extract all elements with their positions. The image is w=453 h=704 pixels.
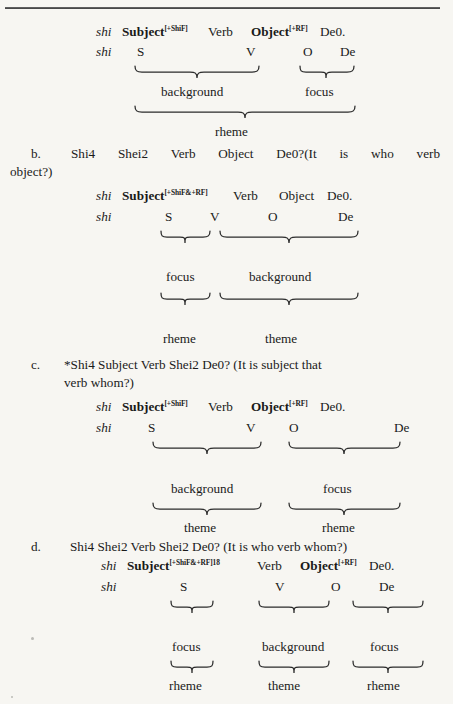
footnote-marker: 18 <box>213 558 220 567</box>
gloss-d-verb: Verb <box>257 559 282 572</box>
brace-b-background <box>219 230 359 245</box>
abbrev-d-shi: shi <box>101 580 116 593</box>
label-c-rheme: rheme <box>322 521 355 534</box>
label-c-background: background <box>171 482 233 495</box>
example-letter-b: b. <box>31 147 41 160</box>
gloss-b-shi: shi <box>96 189 111 202</box>
gloss-d-shi: shi <box>101 559 116 572</box>
gloss-c-verb: Verb <box>208 400 233 413</box>
abbrev-d-o: O <box>331 580 341 593</box>
example-letter-c: c. <box>31 358 40 371</box>
feature-shif-superscript: [+ShiF] <box>165 24 188 33</box>
label-a-focus: focus <box>305 85 334 98</box>
label-d-rheme-2: rheme <box>367 679 400 692</box>
label-d-theme: theme <box>268 679 300 692</box>
label-c-theme: theme <box>184 521 216 534</box>
brace-a-rheme <box>134 105 356 120</box>
abbrev-c-shi: shi <box>96 421 111 434</box>
example-b-sentence: Shi4 Shei2 Verb Object De0?(It is who ve… <box>71 146 440 161</box>
abbrev-b-o: O <box>268 210 278 223</box>
brace-d-rheme-2 <box>352 660 424 675</box>
header-rule <box>5 7 440 9</box>
abbrev-b-v: V <box>210 210 220 223</box>
label-d-background: background <box>262 640 324 653</box>
abbrev-d-s: S <box>180 580 187 593</box>
scan-speck <box>11 696 13 698</box>
gloss-a-subject: Subject[+ShiF] <box>122 25 188 39</box>
brace-b-theme <box>219 292 359 307</box>
example-d-sentence: Shi4 Shei2 Verb Shei2 De0? (It is who ve… <box>70 539 440 554</box>
brace-d-rheme <box>170 660 214 675</box>
gloss-b-subject: Subject[+ShiF&+RF] <box>122 189 208 203</box>
label-a-background: background <box>161 85 223 98</box>
feature-rf-superscript: [+RF] <box>289 399 308 408</box>
label-b-rheme: rheme <box>163 332 196 345</box>
abbrev-a-shi: shi <box>96 45 111 58</box>
example-c-sentence: *Shi4 Subject Verb Shei2 De0? (It is sub… <box>64 357 440 372</box>
feature-shif-rf-superscript: [+ShiF&+RF] <box>170 558 213 567</box>
brace-d-theme <box>258 660 330 675</box>
abbrev-a-de: De <box>340 45 355 58</box>
scan-speck <box>31 637 34 640</box>
brace-d-background <box>258 600 330 615</box>
brace-c-focus <box>288 441 401 456</box>
gloss-d-object: Object[+RF] <box>300 559 357 573</box>
gloss-d-de0: De0. <box>369 559 394 572</box>
label-b-focus: focus <box>166 270 195 283</box>
abbrev-d-de: De <box>379 580 394 593</box>
gloss-b-verb: Verb <box>233 189 258 202</box>
gloss-b-de0: De0. <box>327 189 352 202</box>
gloss-a-de0: De0. <box>320 25 345 38</box>
label-a-rheme: rheme <box>215 125 248 138</box>
example-b-sentence-cont: object?) <box>10 164 52 179</box>
example-c-sentence-cont: verb whom?) <box>64 375 134 390</box>
feature-rf-superscript: [+RF] <box>289 24 308 33</box>
abbrev-b-s: S <box>165 210 172 223</box>
gloss-b-object: Object <box>279 189 314 202</box>
abbrev-a-o: O <box>303 45 313 58</box>
label-b-background: background <box>249 270 311 283</box>
abbrev-b-shi: shi <box>96 210 111 223</box>
gloss-c-shi: shi <box>96 400 111 413</box>
abbrev-a-s: S <box>137 45 144 58</box>
feature-shif-rf-superscript: [+ShiF&+RF] <box>165 188 208 197</box>
abbrev-d-v: V <box>275 580 285 593</box>
abbrev-b-de: De <box>338 210 353 223</box>
brace-d-focus-2 <box>352 600 424 615</box>
gloss-c-de0: De0. <box>320 400 345 413</box>
abbrev-c-de: De <box>394 421 409 434</box>
brace-a-background <box>134 65 260 80</box>
example-letter-d: d. <box>31 540 41 553</box>
gloss-a-object: Object[+RF] <box>251 25 308 39</box>
abbrev-c-v: V <box>246 421 256 434</box>
gloss-a-shi: shi <box>96 25 111 38</box>
brace-a-focus <box>299 65 355 80</box>
label-d-focus: focus <box>172 640 201 653</box>
feature-rf-superscript: [+RF] <box>338 558 357 567</box>
abbrev-a-v: V <box>246 45 256 58</box>
document-page: shi Subject[+ShiF] Verb Object[+RF] De0.… <box>0 0 453 704</box>
brace-c-rheme <box>288 502 401 517</box>
brace-c-theme <box>152 502 262 517</box>
label-b-theme: theme <box>265 332 297 345</box>
abbrev-c-s: S <box>148 421 155 434</box>
gloss-d-subject: Subject[+ShiF&+RF]18 <box>127 559 220 573</box>
label-c-focus: focus <box>323 482 352 495</box>
gloss-a-verb: Verb <box>208 25 233 38</box>
brace-c-background <box>152 441 262 456</box>
brace-b-rheme <box>160 292 211 307</box>
abbrev-c-o: O <box>289 421 299 434</box>
gloss-c-object: Object[+RF] <box>251 400 308 414</box>
label-d-focus-2: focus <box>370 640 399 653</box>
brace-b-focus <box>160 230 211 245</box>
feature-shif-superscript: [+ShiF] <box>165 399 188 408</box>
brace-d-focus <box>170 600 214 615</box>
label-d-rheme: rheme <box>169 679 202 692</box>
gloss-c-subject: Subject[+ShiF] <box>122 400 188 414</box>
